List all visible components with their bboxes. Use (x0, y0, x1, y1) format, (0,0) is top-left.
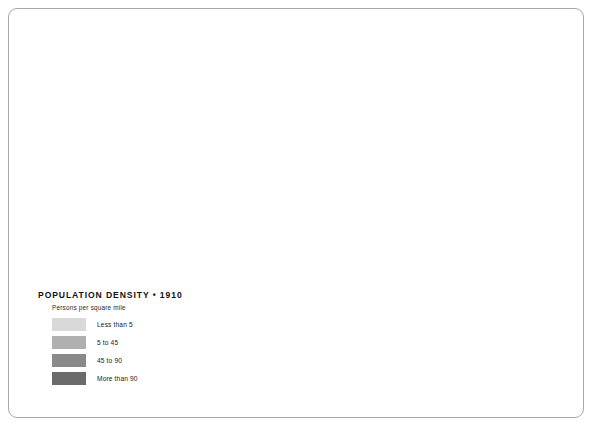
legend-item: 45 to 90 (38, 352, 218, 369)
legend-swatch-45-to-90 (52, 354, 86, 367)
legend-item: 5 to 45 (38, 334, 218, 351)
legend-item: Less than 5 (38, 316, 218, 333)
legend-swatch-more-than-90 (52, 372, 86, 385)
map-legend: POPULATION DENSITY • 1910 Persons per sq… (38, 290, 218, 388)
legend-label-5-to-45: 5 to 45 (97, 339, 118, 346)
legend-swatch-5-to-45 (52, 336, 86, 349)
legend-title: POPULATION DENSITY • 1910 (38, 290, 218, 300)
legend-item: More than 90 (38, 370, 218, 387)
population-density-map-figure: POPULATION DENSITY • 1910 Persons per sq… (0, 0, 594, 428)
legend-subtitle: Persons per square mile (52, 304, 218, 311)
legend-label-45-to-90: 45 to 90 (97, 357, 122, 364)
legend-label-more-than-90: More than 90 (97, 375, 138, 382)
legend-swatch-less-than-5 (52, 318, 86, 331)
legend-label-less-than-5: Less than 5 (97, 321, 133, 328)
